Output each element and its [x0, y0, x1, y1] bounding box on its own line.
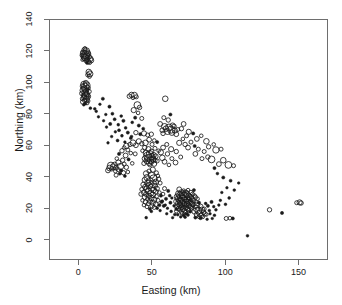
data-point: [206, 204, 209, 207]
y-axis-tick-label: 80: [23, 103, 35, 125]
data-point: [163, 187, 167, 191]
data-point: [204, 202, 207, 205]
y-axis-tick-label: 0: [23, 229, 35, 251]
data-point: [114, 131, 117, 134]
data-point: [105, 113, 108, 116]
data-point: [280, 211, 283, 214]
data-point: [140, 116, 144, 120]
data-point: [222, 176, 225, 179]
x-axis-tick-label: 100: [205, 268, 245, 277]
data-point: [212, 143, 216, 147]
data-point: [174, 149, 178, 153]
data-point: [101, 97, 104, 100]
data-point: [193, 144, 196, 147]
data-point: [212, 205, 215, 208]
data-point: [127, 158, 130, 161]
data-point: [118, 172, 121, 175]
y-axis-title: Northing (km): [14, 75, 25, 165]
data-point: [166, 207, 169, 210]
data-point: [199, 134, 203, 138]
data-point: [225, 162, 232, 169]
data-point: [231, 217, 234, 220]
data-point: [129, 151, 133, 155]
data-point: [181, 122, 186, 127]
data-point: [108, 105, 111, 108]
data-point: [162, 96, 168, 102]
data-point: [187, 214, 190, 217]
data-point: [123, 174, 126, 177]
data-point: [200, 157, 204, 161]
data-point: [99, 103, 102, 106]
data-point: [105, 126, 108, 129]
data-point: [161, 131, 165, 135]
data-point: [193, 151, 198, 156]
data-point: [204, 138, 210, 144]
data-point: [121, 134, 124, 137]
data-point: [117, 152, 120, 155]
data-point: [165, 212, 168, 215]
data-point: [224, 203, 227, 206]
data-point: [267, 208, 271, 212]
data-point: [229, 179, 232, 182]
data-point: [95, 110, 98, 113]
x-axis-tick: [151, 260, 152, 265]
data-point: [162, 116, 166, 120]
data-point: [208, 209, 211, 212]
data-point: [224, 216, 228, 220]
data-point: [113, 118, 116, 121]
data-point: [194, 216, 197, 219]
data-point: [124, 165, 128, 169]
data-point: [130, 135, 133, 138]
data-point: [171, 216, 174, 219]
data-point: [206, 145, 210, 149]
data-point: [199, 217, 202, 220]
data-point: [122, 119, 125, 122]
data-point: [109, 122, 112, 125]
data-point: [209, 212, 212, 215]
y-axis-tick: [44, 113, 49, 114]
data-point: [111, 112, 114, 115]
data-point: [171, 197, 174, 200]
data-point: [120, 149, 124, 153]
data-point: [186, 145, 191, 150]
x-axis-tick: [225, 260, 226, 265]
data-point: [179, 155, 183, 159]
data-point: [102, 120, 105, 123]
data-point: [117, 123, 120, 126]
data-point: [97, 116, 100, 119]
data-point: [165, 142, 169, 146]
data-point: [196, 147, 200, 151]
data-point: [169, 147, 174, 152]
y-axis-tick: [44, 19, 49, 20]
y-axis-tick: [44, 239, 49, 240]
data-point: [107, 142, 110, 145]
data-point: [213, 166, 216, 169]
data-point: [208, 156, 215, 163]
data-point: [89, 107, 92, 110]
data-point: [123, 153, 128, 158]
x-axis-tick-label: 150: [279, 268, 319, 277]
data-point: [215, 208, 218, 211]
data-point: [226, 186, 229, 189]
data-point: [169, 113, 172, 116]
data-point: [134, 130, 138, 134]
y-axis-tick: [44, 50, 49, 51]
y-axis-tick: [44, 176, 49, 177]
x-axis-tick: [298, 260, 299, 265]
data-point: [169, 201, 172, 204]
data-point: [213, 147, 219, 153]
y-axis-tick-label: 20: [23, 197, 35, 219]
data-point: [177, 140, 182, 145]
data-point: [120, 115, 123, 118]
data-point: [124, 127, 127, 130]
data-point: [93, 107, 96, 110]
data-point: [156, 207, 159, 210]
data-point: [181, 137, 185, 141]
y-axis-tick-label: 40: [23, 166, 35, 188]
data-point: [161, 200, 164, 203]
data-points-layer: [50, 20, 329, 261]
data-point: [185, 134, 189, 138]
data-point: [167, 189, 170, 192]
data-point: [173, 213, 176, 216]
data-point: [114, 173, 118, 177]
